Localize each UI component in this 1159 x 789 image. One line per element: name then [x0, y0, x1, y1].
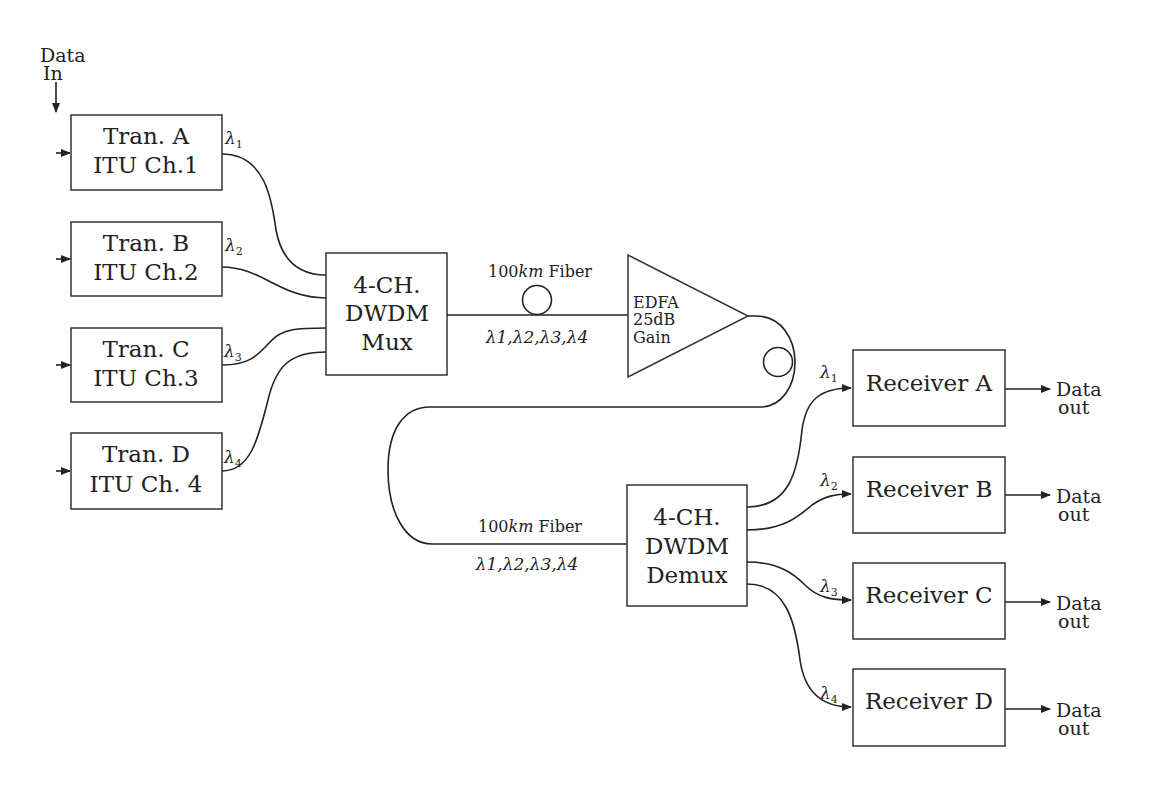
- receiver-d: Receiver D: [853, 669, 1005, 746]
- fiber-spool-2-icon: [764, 348, 793, 377]
- svg-text:Tran. A: Tran. A: [103, 123, 189, 149]
- transmitter-a: Tran. A ITU Ch.1: [71, 115, 222, 190]
- edfa-amplifier: EDFA 25dB Gain: [628, 255, 748, 377]
- svg-text:DWDM: DWDM: [645, 533, 729, 559]
- svg-text:ITU Ch.3: ITU Ch.3: [93, 365, 198, 391]
- svg-text:Receiver C: Receiver C: [865, 582, 992, 608]
- svg-text:Tran. C: Tran. C: [102, 336, 189, 362]
- svg-text:ITU Ch.1: ITU Ch.1: [93, 152, 198, 178]
- fiber-demux-to-receiver-d: [747, 584, 851, 707]
- svg-text:ITU Ch. 4: ITU Ch. 4: [90, 471, 203, 497]
- transmitter-b: Tran. B ITU Ch.2: [71, 222, 222, 296]
- rx-lambda-3-label: λ3: [819, 576, 838, 599]
- receiver-d-data-out-line2: out: [1058, 717, 1090, 739]
- transmitter-d: Tran. D ITU Ch. 4: [71, 433, 222, 509]
- data-in-label: Data In: [40, 44, 86, 112]
- dwdm-mux: 4-CH. DWDM Mux: [326, 253, 447, 375]
- svg-text:Gain: Gain: [633, 328, 671, 347]
- fiber-tran-b-to-mux: [222, 267, 326, 298]
- receiver-b: Receiver B: [853, 457, 1005, 533]
- lambda-1-label: λ1: [224, 128, 243, 151]
- svg-text:4-CH.: 4-CH.: [353, 272, 420, 298]
- transmitter-c: Tran. C ITU Ch.3: [71, 328, 222, 402]
- receiver-b-data-out-line2: out: [1058, 503, 1090, 525]
- receiver-a-data-out-line2: out: [1058, 396, 1090, 418]
- svg-text:Receiver A: Receiver A: [866, 370, 993, 396]
- svg-text:ITU Ch.2: ITU Ch.2: [93, 259, 198, 285]
- svg-text:DWDM: DWDM: [345, 300, 429, 326]
- fiber-2-channels-label: λ1,λ2,λ3,λ4: [475, 554, 579, 574]
- svg-text:In: In: [43, 62, 63, 84]
- rx-lambda-2-label: λ2: [819, 470, 838, 493]
- rx-lambda-4-label: λ4: [819, 683, 838, 706]
- lambda-3-label: λ3: [223, 341, 242, 364]
- fiber-spool-1-icon: [523, 286, 552, 315]
- svg-text:4-CH.: 4-CH.: [653, 504, 720, 530]
- dwdm-demux: 4-CH. DWDM Demux: [627, 485, 747, 606]
- fiber-demux-to-receiver-b: [747, 494, 851, 530]
- svg-text:Receiver D: Receiver D: [865, 688, 993, 714]
- dwdm-diagram: Data In Tran. A ITU Ch.1 λ1 Tran. B ITU …: [0, 0, 1159, 789]
- svg-text:Receiver B: Receiver B: [866, 476, 993, 502]
- receiver-a: Receiver A: [853, 350, 1005, 426]
- lambda-2-label: λ2: [224, 235, 243, 258]
- fiber-1-length-label: 100kmFiber: [488, 262, 592, 281]
- receiver-c-data-out-line2: out: [1058, 610, 1090, 632]
- svg-text:Tran. D: Tran. D: [102, 441, 190, 467]
- svg-text:Tran. B: Tran. B: [103, 230, 189, 256]
- fiber-2-length-label: 100kmFiber: [478, 517, 582, 536]
- svg-text:Mux: Mux: [361, 329, 412, 355]
- fiber-tran-d-to-mux: [222, 352, 326, 471]
- svg-text:Demux: Demux: [646, 562, 728, 588]
- svg-text:25dB: 25dB: [633, 310, 675, 329]
- fiber-1-channels-label: λ1,λ2,λ3,λ4: [485, 327, 589, 347]
- rx-lambda-1-label: λ1: [819, 362, 838, 385]
- receiver-c: Receiver C: [853, 563, 1005, 639]
